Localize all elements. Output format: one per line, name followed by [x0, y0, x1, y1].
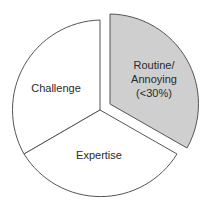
label-expertise: Expertise	[76, 149, 122, 161]
label-routine-line1: Routine/	[134, 59, 176, 71]
label-routine-line2: Annoying	[131, 73, 177, 85]
label-routine-line3: (<30%)	[136, 87, 172, 99]
label-challenge: Challenge	[31, 82, 81, 94]
pie-chart: Challenge Expertise Routine/ Annoying (<…	[0, 0, 209, 211]
